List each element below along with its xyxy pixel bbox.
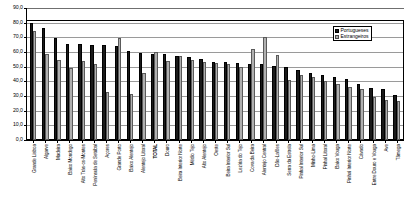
- bar-estrangeiros: [154, 52, 157, 140]
- x-category: Pinhal Litoral: [318, 141, 330, 224]
- x-tick-label: Madeira: [57, 144, 62, 160]
- bar-estrangeiros: [288, 80, 291, 140]
- x-tick-label: Dão-Lafões: [276, 144, 281, 167]
- bar-estrangeiros: [336, 84, 339, 140]
- x-tick-label: Grande Lisboa: [33, 144, 38, 173]
- x-tick-label: Pinhal Litoral: [324, 144, 329, 169]
- bar-estrangeiros: [312, 77, 315, 140]
- legend-swatch-icon: [335, 35, 339, 39]
- x-tick-mark: [69, 141, 70, 143]
- x-category: Serra da Estrela: [282, 141, 294, 224]
- y-axis: 90,080,070,060,050,040,030,020,010,00,0: [0, 0, 26, 141]
- x-category: Península de Setúbal: [88, 141, 100, 224]
- x-tick-mark: [57, 141, 58, 143]
- bar-estrangeiros: [360, 89, 363, 140]
- x-tick-label: Alentejo Litoral: [142, 144, 147, 173]
- x-category: Tâmega: [391, 141, 403, 224]
- x-tick-label: Lezíria do Tejo: [239, 144, 244, 172]
- bar-estrangeiros: [142, 73, 145, 140]
- x-category: Cova da Beira: [245, 141, 257, 224]
- x-tick-mark: [130, 141, 131, 143]
- x-tick-mark: [203, 141, 204, 143]
- bar-chart: 90,080,070,060,050,040,030,020,010,00,0 …: [0, 0, 411, 224]
- x-category: Pinhal Interior Norte: [342, 141, 354, 224]
- x-tick-mark: [397, 141, 398, 143]
- x-tick-mark: [263, 141, 264, 143]
- x-tick-label: Pinhal Interior Norte: [348, 144, 353, 183]
- x-category: Grande Porto: [112, 141, 124, 224]
- bar-group: [221, 8, 233, 140]
- x-category: Baixo Vouga: [330, 141, 342, 224]
- bar-estrangeiros: [82, 61, 85, 140]
- y-tick-label: 40,0: [13, 79, 23, 84]
- x-category: Grande Lisboa: [27, 141, 39, 224]
- bar-estrangeiros: [130, 94, 133, 140]
- x-tick-mark: [312, 141, 313, 143]
- x-tick-mark: [288, 141, 289, 143]
- bar-estrangeiros: [203, 62, 206, 140]
- bar-estrangeiros: [251, 49, 254, 140]
- y-tick-mark: [24, 140, 26, 141]
- x-category: Beira Interior Sul: [221, 141, 233, 224]
- x-category: Alentejo Central: [257, 141, 269, 224]
- bar-estrangeiros: [239, 67, 242, 140]
- x-axis: Grande LisboaAlgarveMadeiraBaixo Mondego…: [27, 141, 403, 224]
- x-tick-label: Algarve: [45, 144, 50, 159]
- bar-group: [27, 8, 39, 140]
- x-category: Ave: [379, 141, 391, 224]
- x-category: Cávado: [354, 141, 366, 224]
- bar-estrangeiros: [118, 38, 121, 140]
- y-tick-label: 90,0: [13, 5, 23, 10]
- x-tick-label: Médio Tejo: [191, 144, 196, 165]
- x-tick-mark: [324, 141, 325, 143]
- x-tick-label: Baixo Mondego: [69, 144, 74, 175]
- x-tick-label: TOTAL: [154, 144, 159, 158]
- x-tick-label: Tâmega: [397, 144, 402, 160]
- x-tick-label: Serra da Estrela: [288, 144, 293, 176]
- bar-group: [391, 8, 403, 140]
- legend-item: Estrangeiros: [335, 34, 369, 39]
- bar-estrangeiros: [106, 92, 109, 140]
- x-category: Lezíria do Tejo: [233, 141, 245, 224]
- y-tick-label: 30,0: [13, 93, 23, 98]
- y-tick-label: 20,0: [13, 108, 23, 113]
- bar-estrangeiros: [300, 75, 303, 140]
- legend-swatch-icon: [335, 29, 339, 33]
- x-tick-mark: [82, 141, 83, 143]
- bar-estrangeiros: [348, 87, 351, 140]
- bar-estrangeiros: [57, 60, 60, 140]
- x-tick-label: Grande Porto: [118, 144, 123, 170]
- y-tick-label: 0,0: [16, 137, 23, 142]
- x-category: Algarve: [39, 141, 51, 224]
- bar-group: [185, 8, 197, 140]
- bar-group: [197, 8, 209, 140]
- bar-group: [160, 8, 172, 140]
- bar-group: [63, 8, 75, 140]
- x-tick-mark: [251, 141, 252, 143]
- bar-group: [270, 8, 282, 140]
- bar-estrangeiros: [263, 37, 266, 140]
- x-tick-mark: [191, 141, 192, 143]
- x-tick-mark: [45, 141, 46, 143]
- y-tick-label: 50,0: [13, 64, 23, 69]
- x-category: Alto Alentejo: [197, 141, 209, 224]
- x-tick-label: Oeste: [215, 144, 220, 156]
- x-category: Pinhal Interior Sul: [294, 141, 306, 224]
- x-tick-label: Ave: [385, 144, 390, 152]
- y-tick-label: 70,0: [13, 35, 23, 40]
- bar-estrangeiros: [94, 64, 97, 140]
- bar-group: [294, 8, 306, 140]
- bar-estrangeiros: [191, 60, 194, 140]
- bar-group: [318, 8, 330, 140]
- y-tick-label: 80,0: [13, 20, 23, 25]
- x-tick-label: Pinhal Interior Sul: [300, 144, 305, 179]
- x-category: Médio Tejo: [185, 141, 197, 224]
- bar-group: [39, 8, 51, 140]
- bar-estrangeiros: [373, 97, 376, 140]
- x-tick-label: Península de Setúbal: [94, 144, 99, 186]
- x-tick-mark: [118, 141, 119, 143]
- bar-group: [379, 8, 391, 140]
- x-category: Alto Trás-os-Montes: [76, 141, 88, 224]
- bar-group: [245, 8, 257, 140]
- bar-estrangeiros: [227, 64, 230, 140]
